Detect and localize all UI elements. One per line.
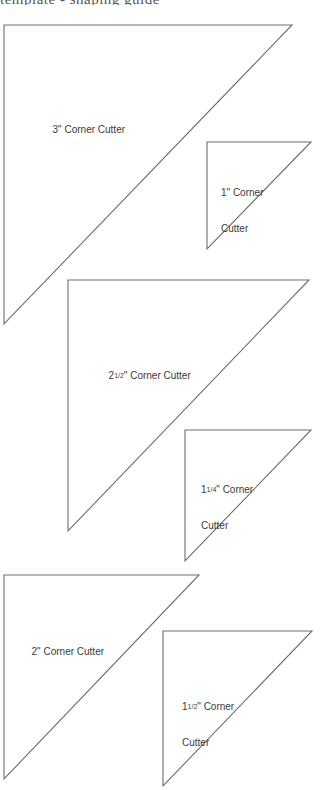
label-line-1: 11/2" Corner	[182, 701, 234, 713]
template-3in-label: 3" Corner Cutter	[47, 112, 125, 136]
label-rest: " Corner	[197, 701, 234, 712]
template-1-1-2in-label: 11/2" Corner Cutter	[182, 677, 234, 761]
template-2in-label: 2" Corner Cutter	[26, 634, 104, 658]
label-line-1: 11/4" Corner	[201, 484, 253, 496]
label-text: 3" Corner Cutter	[53, 124, 125, 135]
template-2-1-2in-label: 21/2" Corner Cutter	[103, 358, 191, 382]
label-rest: " Corner Cutter	[124, 370, 191, 381]
label-rest: " Corner	[216, 484, 253, 495]
label-fraction: 1/4	[207, 486, 217, 493]
template-1-1-4in-label: 11/4" Corner Cutter	[201, 460, 253, 544]
label-line-2: Cutter	[182, 737, 234, 749]
label-line-2: Cutter	[221, 223, 263, 235]
label-text: 2" Corner Cutter	[32, 646, 104, 657]
label-fraction: 1/2	[114, 372, 124, 379]
template-1in-label: 1" Corner Cutter	[221, 163, 263, 247]
label-line-2: Cutter	[201, 520, 253, 532]
label-fraction: 1/2	[188, 703, 198, 710]
label-line-1: 1" Corner	[221, 187, 263, 199]
